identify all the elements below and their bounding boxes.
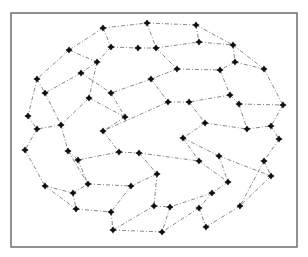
polyhedron-figure xyxy=(0,0,308,257)
